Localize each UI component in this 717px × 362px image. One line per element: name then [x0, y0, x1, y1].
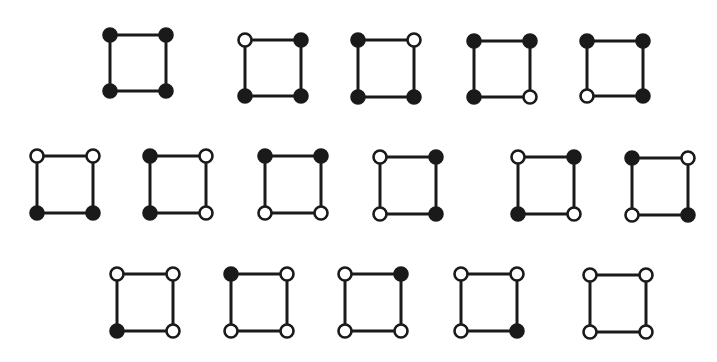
- square-graph: [239, 34, 308, 103]
- vertex-bottom-right-filled: [87, 207, 100, 220]
- vertex-bottom-right-open: [200, 207, 213, 220]
- vertex-bottom-left-filled: [111, 325, 124, 338]
- vertex-bottom-right-open: [524, 91, 537, 104]
- vertex-bottom-left-filled: [31, 207, 44, 220]
- vertex-top-right-open: [87, 150, 100, 163]
- vertex-bottom-left-filled: [239, 90, 252, 103]
- vertex-bottom-right-filled: [637, 90, 650, 103]
- square-graph: [339, 268, 408, 338]
- vertex-top-right-open: [281, 268, 294, 281]
- vertex-top-right-open: [511, 268, 524, 281]
- vertex-bottom-right-open: [640, 326, 653, 339]
- square-graph: [104, 29, 173, 98]
- vertex-top-left-open: [512, 151, 525, 164]
- vertex-bottom-right-open: [568, 208, 581, 221]
- square-graph: [581, 35, 650, 103]
- vertex-bottom-left-open: [626, 209, 639, 222]
- vertex-bottom-left-open: [259, 207, 272, 220]
- vertex-bottom-right-filled: [160, 85, 173, 98]
- square-graph: [31, 150, 100, 220]
- vertex-top-left-filled: [626, 152, 639, 165]
- square-graph: [626, 152, 695, 222]
- vertex-top-left-filled: [352, 34, 365, 47]
- vertex-bottom-left-filled: [468, 91, 481, 104]
- vertex-bottom-left-open: [584, 326, 597, 339]
- square-graph: [374, 151, 443, 221]
- vertex-top-right-filled: [568, 151, 581, 164]
- vertex-bottom-right-filled: [511, 325, 524, 338]
- square-graph: [259, 150, 328, 220]
- vertex-top-left-filled: [581, 35, 594, 48]
- square-graph: [225, 268, 294, 338]
- vertex-top-left-open: [339, 268, 352, 281]
- vertex-top-right-open: [408, 34, 421, 47]
- vertex-bottom-right-open: [281, 325, 294, 338]
- vertex-top-right-filled: [295, 34, 308, 47]
- vertex-top-right-open: [200, 150, 213, 163]
- vertex-top-right-open: [640, 269, 653, 282]
- vertex-top-left-open: [584, 269, 597, 282]
- vertex-bottom-left-open: [374, 208, 387, 221]
- vertex-top-left-open: [374, 151, 387, 164]
- vertex-bottom-left-filled: [144, 207, 157, 220]
- vertex-bottom-left-filled: [352, 91, 365, 104]
- vertex-top-right-filled: [524, 35, 537, 48]
- vertex-top-right-open: [167, 268, 180, 281]
- vertex-top-left-filled: [144, 150, 157, 163]
- vertex-top-left-filled: [104, 29, 117, 42]
- vertex-bottom-left-open: [225, 325, 238, 338]
- square-graph: [468, 35, 537, 104]
- vertex-bottom-left-open: [581, 90, 594, 103]
- vertex-bottom-left-open: [455, 325, 468, 338]
- vertex-top-left-filled: [468, 35, 481, 48]
- vertex-bottom-right-filled: [295, 90, 308, 103]
- vertex-top-right-filled: [395, 268, 408, 281]
- square-graph: [455, 268, 524, 338]
- vertex-bottom-left-open: [339, 325, 352, 338]
- vertex-top-left-open: [31, 150, 44, 163]
- vertex-top-left-filled: [225, 268, 238, 281]
- vertex-top-left-filled: [259, 150, 272, 163]
- vertex-bottom-right-open: [395, 325, 408, 338]
- vertex-top-left-open: [455, 268, 468, 281]
- vertex-bottom-left-filled: [104, 85, 117, 98]
- vertex-top-left-open: [111, 268, 124, 281]
- square-graph: [512, 151, 581, 221]
- vertex-bottom-right-filled: [682, 209, 695, 222]
- vertex-top-right-filled: [430, 151, 443, 164]
- square-graphs-diagram: [0, 0, 717, 362]
- vertex-bottom-right-open: [315, 207, 328, 220]
- square-graph: [352, 34, 421, 104]
- square-graph: [144, 150, 213, 220]
- square-graph: [584, 269, 653, 339]
- vertex-top-left-open: [239, 34, 252, 47]
- vertex-top-right-filled: [160, 29, 173, 42]
- square-graph: [111, 268, 180, 338]
- vertex-bottom-left-filled: [512, 208, 525, 221]
- vertex-bottom-right-filled: [430, 208, 443, 221]
- vertex-bottom-right-open: [167, 325, 180, 338]
- vertex-bottom-right-filled: [408, 91, 421, 104]
- vertex-top-right-open: [682, 152, 695, 165]
- vertex-top-right-filled: [637, 35, 650, 48]
- vertex-top-right-filled: [315, 150, 328, 163]
